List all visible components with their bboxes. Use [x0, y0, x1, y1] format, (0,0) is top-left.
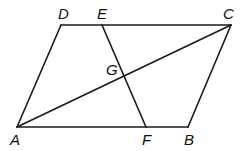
- point-label-C: C: [223, 5, 234, 22]
- geometry-figure: ABCDEFG: [0, 0, 248, 151]
- point-label-F: F: [142, 131, 152, 148]
- segment-DA: [17, 25, 61, 127]
- point-label-E: E: [97, 5, 108, 22]
- point-label-A: A: [9, 131, 20, 148]
- segment-BC: [188, 25, 231, 127]
- point-label-B: B: [184, 131, 194, 148]
- point-label-G: G: [106, 61, 118, 78]
- point-label-D: D: [58, 5, 69, 22]
